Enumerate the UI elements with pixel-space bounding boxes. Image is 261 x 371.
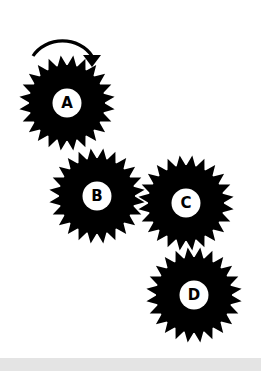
gear-label-a: A — [53, 89, 81, 117]
gear-label-c: C — [172, 189, 200, 217]
gear-label-d: D — [180, 281, 208, 309]
gear-label-b: B — [83, 182, 111, 210]
rotation-arrow-icon — [33, 41, 101, 67]
gear-canvas — [0, 0, 261, 371]
bottom-band — [0, 358, 261, 371]
gear-diagram: A B C D — [0, 0, 261, 371]
